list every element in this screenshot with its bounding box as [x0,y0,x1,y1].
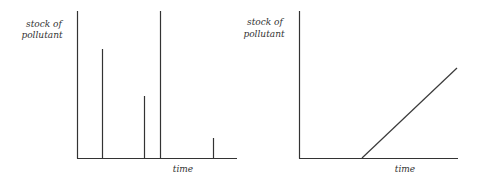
right-chart: stock of pollutant time [243,11,458,174]
left-chart: stock of pollutant time [21,11,237,174]
right-ylabel-line2: pollutant [243,29,285,39]
left-ylabel-line1: stock of [26,19,63,29]
diagram-canvas: stock of pollutant time stock of polluta… [0,0,478,183]
right-growth-line [362,68,457,158]
left-xlabel: time [173,164,193,174]
right-ylabel-line1: stock of [247,17,284,27]
left-ylabel-line2: pollutant [21,30,63,40]
right-xlabel: time [395,164,415,174]
